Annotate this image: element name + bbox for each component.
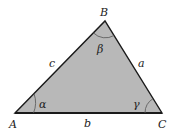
side-label-b: b	[84, 117, 91, 130]
vertex-label-a: A	[8, 118, 17, 131]
angle-label-beta: β	[96, 43, 103, 56]
vertex-label-c: C	[158, 118, 167, 131]
side-label-c: c	[49, 57, 55, 70]
angle-label-alpha: α	[39, 98, 47, 111]
angle-label-gamma: γ	[133, 98, 140, 111]
vertex-label-b: B	[99, 6, 108, 19]
side-label-a: a	[138, 57, 145, 70]
triangle-diagram: B A C c a b β α γ	[0, 0, 175, 134]
